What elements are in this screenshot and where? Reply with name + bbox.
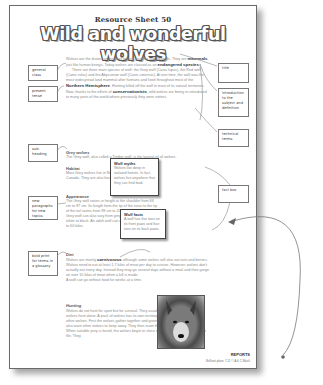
annotation-general-class: general class [28, 65, 58, 81]
fact-box-wolf-myths: Wolf myths Wolves live deep in isolated … [110, 158, 159, 196]
footer-credit: Brilliant plans 7-11 © A & C Black [206, 359, 250, 363]
resource-sheet-page: Resource Sheet 50 Wild and wonderful wol… [9, 5, 257, 369]
wolf-face-icon [158, 296, 204, 348]
wolf-photo [157, 295, 205, 349]
annotation-new-paragraphs: new paragraphs for new topics [28, 196, 58, 220]
intro-paragraph-1: Wolves are the distant ancestor of today… [66, 56, 209, 68]
intro-text: Wolves are the distant ancestor of today… [66, 56, 209, 100]
footer-section-label: REPORTS [231, 352, 250, 357]
annotation-introduction: introduction to the subject and definiti… [218, 88, 249, 117]
intro-paragraph-2: There are three main species of wolf: th… [66, 68, 209, 100]
section-diet: Diet Wolves are mainly carnivorous altho… [66, 252, 209, 283]
annotation-bold-print: bold print for terms in a glossary [28, 251, 58, 276]
arrow-tail-dot-icon [281, 355, 285, 359]
annotation-fact-box: fact box [218, 185, 249, 203]
fact-box-wolf-facts: Wolf facts A wolf has five toes on its f… [120, 209, 166, 239]
annotation-present-tense: present tense [28, 86, 58, 102]
annotation-technical-terms: technical terms [218, 129, 249, 147]
annotation-sub-heading: sub-heading [28, 144, 58, 162]
annotation-title: title [218, 63, 249, 83]
resource-sheet-label: Resource Sheet 50 [10, 15, 256, 24]
